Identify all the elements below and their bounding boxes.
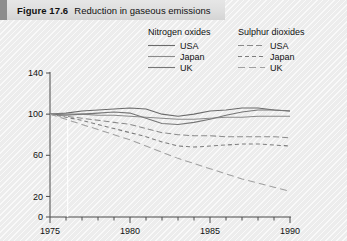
y-axis: 02060100140 bbox=[28, 68, 50, 222]
y-tick-label: 140 bbox=[28, 68, 43, 78]
legend-item-nox-usa: USA bbox=[148, 40, 211, 51]
figure-title: Reduction in gaseous emissions bbox=[74, 5, 210, 16]
chart-plot-area: 02060100140 1975198019851990 bbox=[0, 58, 347, 241]
figure-panel: Figure 17.6 Reduction in gaseous emissio… bbox=[0, 0, 347, 241]
legend-label-so2-usa: USA bbox=[270, 41, 289, 51]
y-tick-label: 100 bbox=[28, 109, 43, 119]
y-tick-label: 20 bbox=[33, 192, 43, 202]
x-axis: 1975198019851990 bbox=[40, 217, 300, 236]
legend-item-so2-usa: USA bbox=[238, 40, 305, 51]
series-line bbox=[50, 114, 290, 191]
x-tick-label: 1980 bbox=[120, 226, 140, 236]
x-tick-label: 1975 bbox=[40, 226, 60, 236]
emissions-line-chart: 02060100140 1975198019851990 bbox=[0, 58, 347, 241]
y-tick-label: 0 bbox=[38, 212, 43, 222]
legend-label-nox-usa: USA bbox=[180, 41, 199, 51]
series-line bbox=[50, 110, 290, 124]
line-swatch-icon bbox=[148, 40, 175, 51]
figure-title-bar: Figure 17.6 Reduction in gaseous emissio… bbox=[0, 0, 225, 20]
legend-heading-nitrogen-oxides: Nitrogen oxides bbox=[148, 27, 211, 37]
figure-number: Figure 17.6 bbox=[17, 5, 68, 16]
x-tick-label: 1990 bbox=[280, 226, 300, 236]
series-line bbox=[50, 108, 290, 116]
data-series bbox=[50, 108, 290, 217]
x-tick-label: 1985 bbox=[200, 226, 220, 236]
y-tick-label: 60 bbox=[33, 150, 43, 160]
dashed-line-swatch-icon bbox=[238, 40, 265, 51]
title-bar-tab bbox=[0, 0, 7, 20]
legend-heading-sulphur-dioxides: Sulphur dioxides bbox=[238, 27, 305, 37]
